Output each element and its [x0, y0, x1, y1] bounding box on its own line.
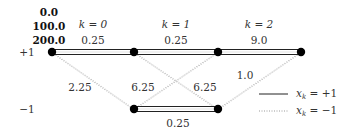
state-label-plus: +1 [19, 46, 34, 58]
node-bottom-1 [130, 105, 138, 113]
legend: xk = +1 xk = −1 [259, 87, 337, 118]
node-top-2 [214, 48, 222, 56]
path-metric-1: 100.0 [33, 20, 66, 32]
stage-label-1: k = 1 [162, 18, 191, 30]
edge-diag-0-down-b [55, 55, 131, 108]
edge-diag-0-down [52, 52, 134, 109]
legend-solid-label: xk = +1 [296, 87, 337, 101]
edge-metric-diag-2-up: 1.0 [237, 69, 254, 81]
edge-metric-top-1: 0.25 [164, 34, 187, 46]
edge-metric-diag-0-down: 2.25 [68, 81, 91, 93]
node-top-3 [297, 48, 305, 56]
path-metric-2: 200.0 [33, 34, 66, 46]
node-top-0 [48, 48, 56, 56]
edge-metric-diag-1-down: 6.25 [193, 81, 216, 93]
stage-label-2: k = 2 [245, 18, 274, 30]
edge-metric-top-0: 0.25 [81, 34, 104, 46]
stage-label-0: k = 0 [79, 18, 108, 30]
edge-metric-diag-1-up: 6.25 [131, 81, 154, 93]
legend-dotted-label: xk = −1 [296, 104, 337, 118]
trellis-diagram: 0.0 100.0 200.0 k = 0 k = 1 k = 2 +1 −1 … [0, 0, 349, 135]
node-bottom-2 [214, 105, 222, 113]
edge-diag-2-up [218, 52, 301, 109]
edge-diag-2-up-b [221, 55, 298, 108]
edge-metric-top-2: 9.0 [251, 34, 268, 46]
node-top-1 [130, 48, 138, 56]
path-metric-0: 0.0 [40, 6, 58, 18]
state-label-minus: −1 [19, 103, 34, 115]
edge-metric-bottom-1: 0.25 [166, 117, 189, 129]
